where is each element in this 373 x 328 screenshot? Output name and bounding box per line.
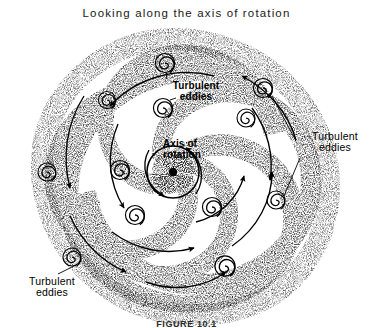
label-turbulent-eddies-bottom-left: Turbulent eddies xyxy=(4,276,100,297)
label-line-2: eddies xyxy=(150,92,242,103)
figure-root: Looking along the axis of rotation xyxy=(0,0,373,328)
label-turbulent-eddies-right: Turbulent eddies xyxy=(297,131,373,152)
label-line-2: eddies xyxy=(297,142,373,153)
flow-arrow xyxy=(232,172,272,246)
eddy-glyph xyxy=(202,197,221,216)
label-axis-of-rotation: Axis of rotation xyxy=(163,139,233,160)
label-line-1: Turbulent xyxy=(173,80,219,91)
label-line-2: rotation xyxy=(163,150,233,161)
eddy-glyph xyxy=(237,109,255,127)
figure-caption: FIGURE 10.1 xyxy=(0,319,373,328)
label-line-2: eddies xyxy=(4,287,100,298)
label-line-1: Axis of xyxy=(163,138,197,149)
axis-dot xyxy=(169,168,177,176)
eddy-glyph xyxy=(125,205,144,224)
label-turbulent-eddies-top: Turbulent eddies xyxy=(150,81,242,102)
